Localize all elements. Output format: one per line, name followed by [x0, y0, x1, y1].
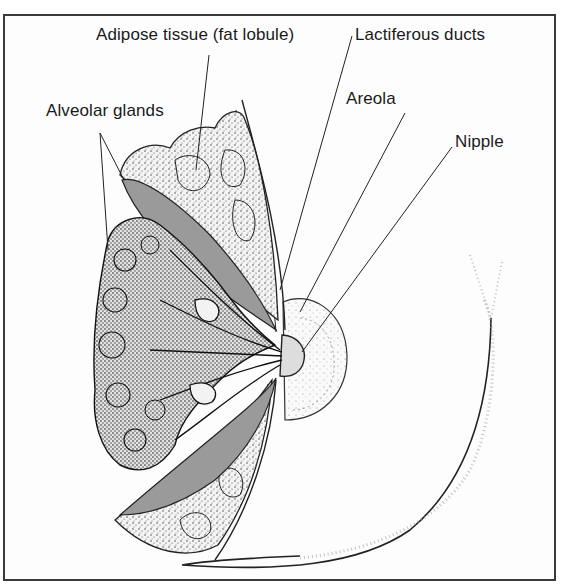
leader-nipple: [302, 147, 452, 352]
label-alveolar-glands: Alveolar glands: [46, 102, 164, 119]
breast-anatomy-illustration: [0, 0, 561, 586]
label-areola: Areola: [346, 90, 396, 107]
label-nipple: Nipple: [455, 133, 504, 150]
label-adipose-tissue: Adipose tissue (fat lobule): [96, 26, 294, 43]
leader-lactiferous: [280, 36, 352, 290]
label-lactiferous-ducts: Lactiferous ducts: [355, 26, 485, 43]
